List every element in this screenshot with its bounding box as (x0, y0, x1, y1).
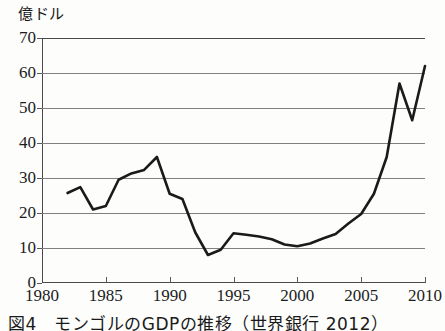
y-tick-label-30: 30 (19, 169, 36, 186)
y-tick-mark-0 (37, 283, 42, 284)
x-tick-mark-2010 (425, 277, 426, 283)
data-series-layer (42, 38, 425, 283)
gdp-line-series (68, 66, 425, 255)
x-tick-label-2010: 2010 (408, 287, 442, 304)
figure-root: 億ドル 010203040506070 19801985199019952000… (0, 0, 445, 331)
y-axis-unit-label: 億ドル (18, 2, 65, 23)
y-tick-label-60: 60 (19, 64, 36, 81)
y-tick-label-50: 50 (19, 99, 36, 116)
x-tick-label-1985: 1985 (89, 287, 123, 304)
figure-caption: 図4 モンゴルのGDPの推移（世界銀行 2012） (8, 310, 445, 331)
y-tick-label-40: 40 (19, 134, 36, 151)
x-tick-label-1995: 1995 (217, 287, 251, 304)
y-tick-label-10: 10 (19, 239, 36, 256)
y-tick-label-70: 70 (19, 29, 36, 46)
x-tick-label-2000: 2000 (280, 287, 314, 304)
x-tick-label-1980: 1980 (25, 287, 59, 304)
chart-plot-area: 010203040506070 198019851990199520002005… (42, 38, 425, 283)
y-tick-label-20: 20 (19, 204, 36, 221)
x-tick-label-1990: 1990 (153, 287, 187, 304)
x-tick-label-2005: 2005 (344, 287, 378, 304)
